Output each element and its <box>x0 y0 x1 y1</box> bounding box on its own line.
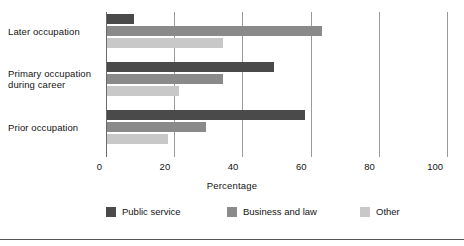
bar <box>107 86 179 96</box>
x-tick-label-40: 40 <box>228 161 243 172</box>
bottom-divider <box>0 239 464 240</box>
legend-swatch-icon <box>227 207 237 217</box>
bar <box>107 74 223 84</box>
plot-area <box>106 12 447 157</box>
legend-swatch-icon <box>360 207 370 217</box>
gridline-80 <box>379 12 380 157</box>
category-label-line: Primary occupation <box>8 68 104 79</box>
category-label-line: during career <box>8 79 104 90</box>
legend-label: Other <box>376 206 400 217</box>
gridline-100 <box>447 12 448 157</box>
category-label-line: Prior occupation <box>8 122 104 133</box>
x-tick-label-0: 0 <box>97 161 106 172</box>
x-axis-title: Percentage <box>0 180 464 191</box>
bar <box>107 14 134 24</box>
chart-figure: Later occupationPrimary occupationduring… <box>0 0 464 246</box>
x-tick-label-60: 60 <box>296 161 311 172</box>
bar <box>107 26 322 36</box>
x-tick-label-100: 100 <box>427 161 447 172</box>
bar <box>107 134 168 144</box>
legend-label: Public service <box>122 206 181 217</box>
category-label: Later occupation <box>8 26 104 37</box>
chart-legend: Public serviceBusiness and lawOther <box>0 206 464 222</box>
bar <box>107 62 274 72</box>
legend-item[interactable]: Other <box>360 206 400 217</box>
category-label-line: Later occupation <box>8 26 104 37</box>
category-label: Prior occupation <box>8 122 104 133</box>
x-tick-label-80: 80 <box>364 161 379 172</box>
bar <box>107 122 206 132</box>
legend-item[interactable]: Business and law <box>227 206 317 217</box>
bar <box>107 110 305 120</box>
bar <box>107 38 223 48</box>
x-tick-label-20: 20 <box>160 161 175 172</box>
legend-label: Business and law <box>243 206 317 217</box>
legend-swatch-icon <box>106 207 116 217</box>
category-label: Primary occupationduring career <box>8 68 104 90</box>
legend-item[interactable]: Public service <box>106 206 181 217</box>
